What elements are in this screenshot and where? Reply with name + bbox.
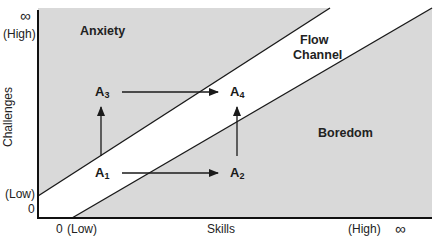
x-axis-low-label: (Low): [67, 222, 97, 236]
flow-diagram-canvas: [0, 0, 437, 240]
point-a3: A3: [95, 84, 109, 100]
point-a2-base: A: [230, 165, 239, 180]
point-a4: A4: [230, 84, 244, 100]
point-a1-base: A: [95, 165, 104, 180]
point-a1-sub: 1: [104, 171, 109, 181]
flow-channel-label-line1: Flow: [300, 33, 328, 47]
point-a4-sub: 4: [239, 90, 244, 100]
point-a2: A2: [230, 165, 244, 181]
y-axis-high-label: (High): [3, 27, 36, 41]
y-axis-zero-label: 0: [28, 202, 35, 216]
y-axis-title: Challenges: [1, 87, 15, 147]
point-a4-base: A: [230, 84, 239, 99]
point-a2-sub: 2: [239, 171, 244, 181]
y-axis-low-label: (Low): [5, 187, 35, 201]
boredom-label: Boredom: [318, 126, 373, 140]
x-axis-zero-label: 0: [56, 222, 63, 236]
y-axis-infinity-label: ∞: [20, 7, 31, 24]
x-axis-high-label: (High): [348, 222, 381, 236]
flow-channel-label-line2: Channel: [293, 48, 342, 62]
point-a3-base: A: [95, 84, 104, 99]
x-axis-infinity-label: ∞: [395, 220, 406, 237]
point-a3-sub: 3: [104, 90, 109, 100]
x-axis-title: Skills: [207, 222, 235, 236]
anxiety-label: Anxiety: [80, 24, 125, 38]
point-a1: A1: [95, 165, 109, 181]
